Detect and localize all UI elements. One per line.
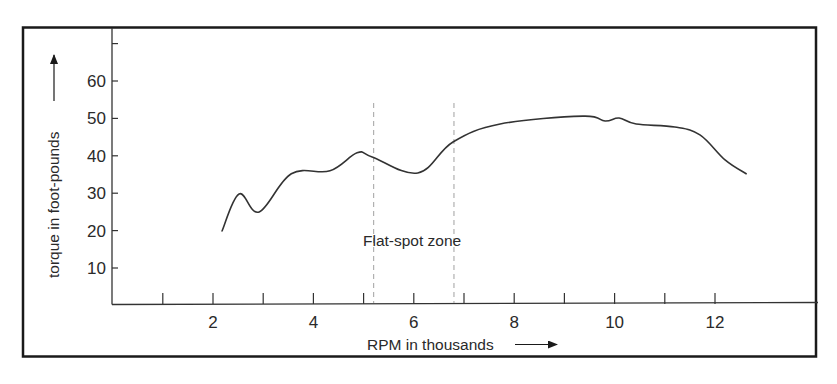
y-tick-label: 30 [87,184,106,203]
flat-spot-zone-lines [374,103,454,303]
chart-frame [23,28,816,357]
y-axis-ticks: 102030405060 [87,44,118,278]
y-tick-label: 20 [87,222,106,241]
flat-spot-zone-label: Flat-spot zone [363,232,461,249]
x-axis-title: RPM in thousands [367,336,494,353]
x-axis-ticks: 24681012 [163,293,725,332]
x-tick-label: 10 [605,313,624,332]
chart-canvas: 102030405060 24681012 Flat-spot zone RPM… [0,0,837,384]
x-tick-label: 12 [706,313,725,332]
x-axis-line [112,303,818,305]
x-tick-label: 6 [409,313,418,332]
x-tick-label: 2 [208,313,217,332]
y-tick-label: 40 [87,147,106,166]
y-tick-label: 10 [87,259,106,278]
x-tick-label: 8 [509,313,518,332]
y-axis-title: torque in foot-pounds [45,131,62,278]
x-tick-label: 4 [309,313,318,332]
torque-curve [222,116,746,231]
y-tick-label: 50 [87,109,106,128]
y-tick-label: 60 [87,72,106,91]
